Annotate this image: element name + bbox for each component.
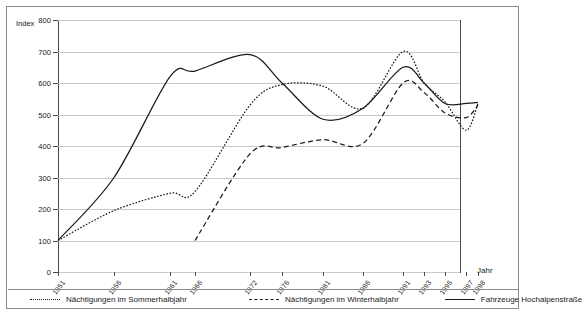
series-lines	[58, 20, 460, 272]
x-tick	[250, 272, 251, 276]
y-axis-title: Index	[16, 19, 34, 28]
x-tick	[195, 272, 196, 276]
x-axis-title: Jahr	[477, 266, 493, 275]
dotted-line-icon	[30, 299, 60, 300]
dashed-line-icon	[249, 299, 279, 300]
y-tick-label: 0	[47, 268, 51, 277]
y-tick-label: 400	[38, 142, 51, 151]
y-tick-label: 200	[38, 205, 51, 214]
gridline	[58, 272, 460, 273]
chart-legend: Nächtigungen im Sommerhalbjahr Nächtigun…	[8, 289, 519, 308]
x-tick	[114, 272, 115, 276]
x-tick	[58, 272, 59, 276]
x-tick	[282, 272, 283, 276]
legend-item-hochalpenstrasse: Fahrzeuge Hochalpenstraße	[445, 295, 582, 304]
y-tick-label: 300	[38, 173, 51, 182]
y-tick-label: 600	[38, 79, 51, 88]
y-tick-label: 800	[38, 16, 51, 25]
x-tick	[323, 272, 324, 276]
x-tick	[478, 272, 479, 276]
series-line-hochalpenstrasse	[58, 54, 478, 240]
legend-item-winterhalbjahr: Nächtigungen im Winterhalbjahr	[249, 295, 399, 304]
x-tick	[170, 272, 171, 276]
y-tick-label: 100	[38, 236, 51, 245]
chart-frame: Index Jahr 0100200300400500600700800 195…	[6, 6, 519, 309]
x-tick	[424, 272, 425, 276]
x-tick	[403, 272, 404, 276]
plot-area: 0100200300400500600700800 19511956196119…	[58, 20, 460, 272]
plot-right-edge	[460, 20, 461, 273]
legend-label: Fahrzeuge Hochalpenstraße	[481, 295, 582, 304]
y-tick-label: 700	[38, 47, 51, 56]
legend-label: Nächtigungen im Sommerhalbjahr	[66, 295, 187, 304]
x-tick	[466, 272, 467, 276]
series-line-winterhalbjahr	[195, 80, 478, 240]
solid-line-icon	[445, 299, 475, 300]
y-tick-label: 500	[38, 110, 51, 119]
legend-label: Nächtigungen im Winterhalbjahr	[285, 295, 399, 304]
legend-item-sommerhalbjahr: Nächtigungen im Sommerhalbjahr	[30, 295, 187, 304]
x-tick	[445, 272, 446, 276]
x-tick	[363, 272, 364, 276]
